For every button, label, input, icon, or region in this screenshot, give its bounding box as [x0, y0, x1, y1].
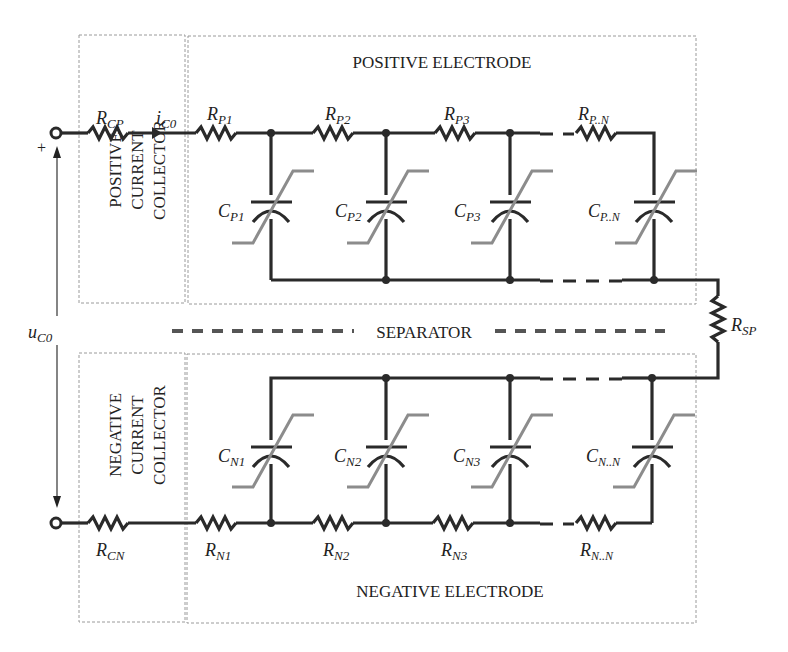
negative-collector-line-3: COLLECTOR	[150, 384, 169, 484]
circuit-diagram: POSITIVE ELECTRODE NEGATIVE ELECTRODE SE…	[0, 0, 788, 652]
capacitor-cp3	[471, 171, 553, 243]
resistor-rpn	[576, 127, 616, 139]
resistor-rsp	[712, 296, 724, 342]
node	[506, 519, 514, 527]
node	[267, 519, 275, 527]
node	[650, 276, 658, 284]
label-cp3: CP3	[454, 201, 481, 224]
node	[382, 374, 390, 382]
label-rpn: RP..N	[577, 104, 610, 127]
node	[648, 374, 656, 382]
arrow-up-icon	[53, 146, 61, 158]
node	[382, 129, 390, 137]
capacitor-cp2	[347, 171, 429, 243]
label-uc0: uC0	[28, 322, 53, 345]
label-rsp: RSP	[730, 315, 757, 338]
label-cp1: CP1	[218, 201, 244, 224]
capacitor-cn3	[471, 415, 553, 487]
negative-collector-label: NEGATIVE CURRENT COLLECTOR	[106, 384, 169, 484]
capacitor-cn2	[347, 415, 429, 487]
label-rn3: RN3	[440, 540, 468, 563]
negative-collector-line-2: CURRENT	[128, 395, 147, 475]
node	[267, 129, 275, 137]
label-rp2: RP2	[324, 104, 351, 127]
resistor-rp3	[435, 127, 475, 139]
label-cpn: CP..N	[588, 201, 621, 224]
node	[506, 374, 514, 382]
resistor-rp1	[196, 127, 236, 139]
label-cn2: CN2	[334, 446, 362, 469]
positive-terminal	[51, 128, 61, 138]
plus-sign: +	[37, 139, 46, 156]
positive-collector-line-2: CURRENT	[128, 130, 147, 210]
negative-terminal	[51, 518, 61, 528]
negative-collector-line-1: NEGATIVE	[106, 393, 125, 477]
label-rn2: RN2	[322, 540, 350, 563]
label-rnn: RN..N	[579, 540, 614, 563]
label-cnn: CN..N	[586, 446, 621, 469]
label-rp3: RP3	[443, 104, 470, 127]
resistor-rn1	[196, 517, 236, 529]
wire	[622, 280, 718, 296]
negative-electrode-label: NEGATIVE ELECTRODE	[356, 582, 543, 601]
arrow-down-icon	[53, 496, 61, 508]
resistor-rp2	[313, 127, 353, 139]
node	[382, 276, 390, 284]
label-rn1: RN1	[204, 540, 231, 563]
positive-collector-line-1: POSITIVE	[106, 132, 125, 208]
label-rcn: RCN	[95, 540, 126, 563]
node	[506, 276, 514, 284]
label-rcp: RCP	[95, 108, 124, 131]
node	[506, 129, 514, 137]
resistor-rn2	[313, 517, 353, 529]
capacitor-cn1	[232, 415, 314, 487]
resistor-rcn	[88, 517, 128, 529]
label-rp1: RP1	[206, 104, 232, 127]
positive-electrode-label: POSITIVE ELECTRODE	[353, 53, 532, 72]
label-cn1: CN1	[218, 446, 245, 469]
resistor-rn3	[433, 517, 473, 529]
capacitor-cnn	[613, 415, 695, 487]
label-ic0: iC0	[156, 108, 177, 131]
resistor-rnn	[576, 517, 616, 529]
wire	[654, 342, 718, 378]
positive-electrode-region	[188, 36, 696, 304]
label-cp2: CP2	[335, 201, 362, 224]
label-cn3: CN3	[453, 446, 481, 469]
node	[382, 519, 390, 527]
negative-collector-region	[79, 353, 185, 622]
capacitor-cp1	[232, 171, 314, 243]
capacitor-cpn	[615, 171, 697, 243]
separator-label: SEPARATOR	[376, 323, 472, 342]
